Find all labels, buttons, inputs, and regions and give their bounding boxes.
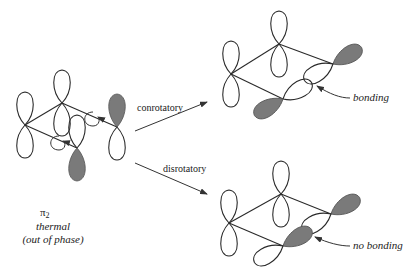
disrotatory-product bbox=[221, 161, 364, 270]
rotation-arrow-icon bbox=[51, 136, 65, 150]
rotation-arrow-icon bbox=[85, 112, 99, 126]
phase-label: (out of phase) bbox=[22, 233, 83, 246]
pointer-arrow bbox=[317, 86, 350, 98]
no-bonding-label: no bonding bbox=[353, 239, 403, 251]
conrotatory-product bbox=[223, 11, 366, 123]
conrotatory-label: conrotatory bbox=[137, 102, 183, 113]
pointer-arrow bbox=[315, 237, 350, 246]
bonding-label: bonding bbox=[353, 91, 390, 103]
orbital-diagram: π2 thermal (out of phase) conrotatory di… bbox=[0, 0, 410, 276]
condition-label: thermal bbox=[36, 220, 70, 232]
orbital-symbol: π2 bbox=[40, 206, 50, 220]
reactant-molecule bbox=[17, 70, 126, 181]
disrotatory-label: disrotatory bbox=[163, 163, 206, 174]
